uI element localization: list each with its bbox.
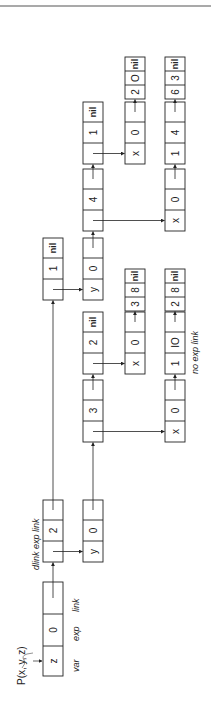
cell-y0b-1: 0 [88, 265, 99, 271]
cell-t20-2: nil [130, 59, 140, 70]
label-exp: exp [71, 626, 81, 641]
cell-n3-1: 3 [88, 407, 99, 413]
cell-t63-2: nil [170, 59, 180, 70]
cell-t20-1: O [130, 74, 141, 82]
diagram-title: P(x, y, z) [16, 646, 27, 685]
cell-n4-1: 4 [88, 196, 99, 202]
cell-t38-1: 8 [130, 287, 141, 293]
cell-x0a-0: x [130, 361, 141, 366]
cell-n1nil-2: nil [88, 107, 98, 118]
cell-x0b-0: x [170, 429, 181, 434]
linked-list-diagram: z02y032nilx038nilx01IO28nil1nily041nilx0… [0, 0, 211, 701]
cell-n110-1: IO [170, 337, 181, 348]
cell-y0a-1: 0 [88, 527, 99, 533]
cell-d2-1: 2 [48, 527, 59, 533]
cell-n1nil_top-2: nil [48, 243, 58, 254]
cell-x0a-1: 0 [130, 339, 141, 345]
cell-t28-2: nil [170, 271, 180, 282]
cell-n1nil-1: 1 [88, 129, 99, 135]
cell-t63-0: 6 [170, 89, 181, 95]
cell-x0d-0: x [170, 218, 181, 223]
cell-t28-1: 8 [170, 287, 181, 293]
cell-t28-0: 2 [170, 301, 181, 307]
cell-t38-0: 3 [130, 301, 141, 307]
cell-n2nil-1: 2 [88, 339, 99, 345]
cell-x0c-0: x [130, 151, 141, 156]
cell-t38-2: nil [130, 271, 140, 282]
label-link: link [71, 598, 81, 612]
cell-root-0: z [48, 659, 59, 664]
cell-t20-0: 2 [130, 89, 141, 95]
cell-y0a-0: y [88, 549, 99, 554]
label-no-exp-link: no exp link [190, 330, 200, 374]
cell-n110-0: 1 [170, 360, 181, 366]
cell-root-1: 0 [48, 627, 59, 633]
cell-x0d-1: 0 [170, 196, 181, 202]
label-dlink-exp-link: dlink exp link [31, 518, 41, 570]
label-var: var [71, 658, 81, 672]
cell-n14-0: 1 [170, 150, 181, 156]
cell-n2nil-2: nil [88, 317, 98, 328]
cell-y0b-0: y [88, 287, 99, 292]
cell-x0b-1: 0 [170, 407, 181, 413]
cell-t63-1: 3 [170, 75, 181, 81]
cell-x0c-1: 0 [130, 129, 141, 135]
cell-n1nil_top-1: 1 [48, 265, 59, 271]
cell-n14-1: 4 [170, 129, 181, 135]
